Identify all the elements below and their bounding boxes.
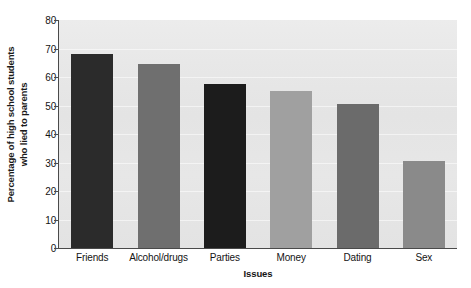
y-tick-label-70: 70 (34, 43, 56, 54)
y-axis-title-line-1: Percentage of high school students (6, 46, 19, 202)
y-tick-label-0: 0 (34, 243, 56, 254)
x-tick-label-parties: Parties (210, 252, 240, 263)
x-tick-label-sex: Sex (415, 252, 432, 263)
y-tick-mark-70 (54, 49, 59, 50)
y-axis-title: Percentage of high school students who l… (0, 0, 36, 248)
y-tick-label-10: 10 (34, 214, 56, 225)
x-tick-label-dating: Dating (343, 252, 371, 263)
bar-alcohol-drugs (138, 64, 180, 248)
gridline-30 (59, 163, 457, 164)
y-tick-label-40: 40 (34, 129, 56, 140)
y-tick-label-20: 20 (34, 186, 56, 197)
gridline-10 (59, 220, 457, 221)
y-tick-label-60: 60 (34, 72, 56, 83)
gridline-40 (59, 134, 457, 135)
x-tick-label-alcohol-drugs: Alcohol/drugs (129, 252, 188, 263)
bar-chart: Percentage of high school students who l… (0, 0, 471, 288)
y-tick-mark-50 (54, 106, 59, 107)
x-axis-title: Issues (59, 268, 457, 279)
bar-parties (204, 84, 246, 248)
y-tick-label-80: 80 (34, 15, 56, 26)
x-tick-label-friends: Friends (76, 252, 108, 263)
y-axis-title-line-2: who lied to parents (18, 46, 31, 202)
bar-sex (403, 161, 445, 248)
gridline-70 (59, 49, 457, 50)
x-axis-tick-labels: FriendsAlcohol/drugsPartiesMoneyDatingSe… (59, 252, 457, 268)
bar-dating (337, 104, 379, 248)
bar-money (270, 91, 312, 248)
bar-friends (71, 54, 113, 248)
x-axis-line (58, 248, 457, 249)
gridline-50 (59, 106, 457, 107)
y-tick-mark-0 (54, 248, 59, 249)
y-tick-label-50: 50 (34, 100, 56, 111)
y-tick-label-30: 30 (34, 157, 56, 168)
x-tick-label-money: Money (277, 252, 306, 263)
gridline-20 (59, 191, 457, 192)
y-tick-mark-20 (54, 191, 59, 192)
y-tick-mark-40 (54, 134, 59, 135)
plot-area (59, 20, 457, 248)
gridline-60 (59, 77, 457, 78)
y-tick-mark-80 (54, 20, 59, 21)
y-tick-mark-10 (54, 220, 59, 221)
y-axis-tick-labels: 01020304050607080 (34, 0, 56, 288)
y-tick-mark-30 (54, 163, 59, 164)
y-tick-mark-60 (54, 77, 59, 78)
